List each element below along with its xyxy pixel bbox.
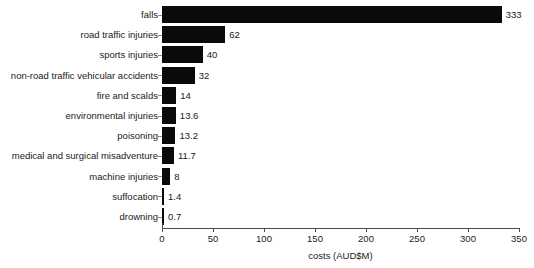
y-axis-tick — [158, 176, 162, 177]
x-axis-tick — [417, 228, 418, 232]
bar — [162, 46, 203, 63]
bar-row: poisoning13.2 — [0, 127, 534, 144]
x-axis-tick — [213, 228, 214, 232]
category-label: suffocation — [112, 188, 158, 205]
x-axis-tick — [162, 228, 163, 232]
bar-value-label: 40 — [203, 46, 218, 63]
category-label: fire and scalds — [97, 87, 158, 104]
bar — [162, 127, 175, 144]
bar-value-label: 0.7 — [164, 208, 181, 225]
bar-chart: falls333road traffic injuries62sports in… — [0, 0, 534, 268]
bar-value-label: 13.6 — [176, 107, 199, 124]
category-label: machine injuries — [89, 168, 158, 185]
y-axis-tick — [158, 75, 162, 76]
x-axis-tick-label: 250 — [409, 233, 425, 244]
bar — [162, 26, 225, 43]
y-axis-tick — [158, 116, 162, 117]
bar-row: medical and surgical misadventure11.7 — [0, 147, 534, 164]
x-axis-tick-label: 150 — [307, 233, 323, 244]
bar-value-label: 13.2 — [175, 127, 198, 144]
y-axis-tick — [158, 136, 162, 137]
category-label: sports injuries — [99, 46, 158, 63]
y-axis-tick — [158, 156, 162, 157]
category-label: drowning — [119, 208, 158, 225]
bar-row: machine injuries8 — [0, 168, 534, 185]
x-axis-tick — [519, 228, 520, 232]
bar — [162, 87, 176, 104]
bar — [162, 147, 174, 164]
bar-row: non-road traffic vehicular accidents32 — [0, 67, 534, 84]
bar-value-label: 14 — [176, 87, 191, 104]
bar-value-label: 62 — [225, 26, 240, 43]
category-label: non-road traffic vehicular accidents — [11, 67, 158, 84]
x-axis-tick-label: 350 — [511, 233, 527, 244]
x-axis-tick-label: 0 — [159, 233, 164, 244]
bar — [162, 6, 502, 23]
bar — [162, 107, 176, 124]
bar — [162, 168, 170, 185]
x-axis-tick-label: 100 — [256, 233, 272, 244]
bar — [162, 67, 195, 84]
y-axis-tick — [158, 196, 162, 197]
y-axis-tick — [158, 217, 162, 218]
bar-row: fire and scalds14 — [0, 87, 534, 104]
category-label: environmental injuries — [66, 107, 158, 124]
x-axis-tick-label: 50 — [208, 233, 219, 244]
x-axis-tick-label: 300 — [460, 233, 476, 244]
x-axis-tick — [366, 228, 367, 232]
bar-value-label: 1.4 — [164, 188, 181, 205]
bar-row: sports injuries40 — [0, 46, 534, 63]
bar-row: falls333 — [0, 6, 534, 23]
category-label: falls — [141, 6, 158, 23]
x-axis-tick — [264, 228, 265, 232]
bar-value-label: 32 — [195, 67, 210, 84]
bar-value-label: 11.7 — [174, 147, 196, 164]
bar-row: environmental injuries13.6 — [0, 107, 534, 124]
bar-row: drowning0.7 — [0, 208, 534, 225]
category-label: medical and surgical misadventure — [12, 147, 158, 164]
bar-value-label: 333 — [502, 6, 522, 23]
y-axis-tick — [158, 15, 162, 16]
bar-row: suffocation1.4 — [0, 188, 534, 205]
y-axis-tick — [158, 95, 162, 96]
x-axis-line — [162, 228, 519, 229]
x-axis-title: costs (AUD$M) — [162, 250, 519, 261]
y-axis-tick — [158, 35, 162, 36]
category-label: road traffic injuries — [81, 26, 158, 43]
y-axis-tick — [158, 55, 162, 56]
x-axis-tick-label: 200 — [358, 233, 374, 244]
x-axis-tick — [468, 228, 469, 232]
category-label: poisoning — [117, 127, 158, 144]
bar-value-label: 8 — [170, 168, 179, 185]
bar-row: road traffic injuries62 — [0, 26, 534, 43]
x-axis-tick — [315, 228, 316, 232]
